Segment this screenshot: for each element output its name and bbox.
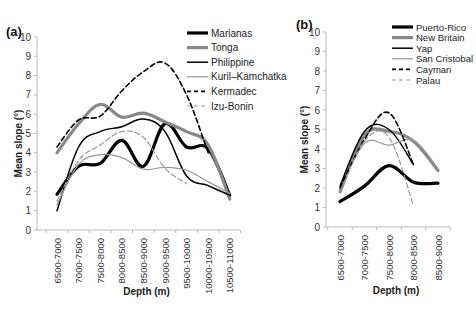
legend-label: Izu-Bonin	[211, 101, 253, 112]
y-tick-label: 5	[314, 124, 320, 135]
x-tick-label: 7500-8000	[95, 238, 106, 283]
y-tick-label: 7	[25, 89, 31, 100]
x-tick-label: 8000-8500	[408, 235, 419, 280]
x-axis-label: Depth (m)	[123, 286, 170, 297]
y-axis-label: Mean slope (°)	[299, 106, 310, 174]
legend-label: Cayman	[416, 64, 451, 75]
y-tick-label: 3	[314, 163, 320, 174]
x-axis-label: Depth (m)	[373, 285, 420, 296]
y-tick-label: 0	[314, 222, 320, 233]
x-tick-label: 9500-10000	[181, 238, 192, 289]
series-line-kuril-kamchatka	[57, 154, 230, 205]
y-tick-label: 2	[314, 183, 320, 194]
legend-label: Kuril–Kamchatka	[211, 71, 287, 82]
x-tick-label: 8000-8500	[116, 238, 127, 283]
y-tick-label: 7	[314, 85, 320, 96]
legend-label: Marianas	[211, 28, 252, 39]
y-tick-label: 4	[25, 147, 31, 158]
x-tick-label: 10500-11000	[224, 238, 235, 293]
legend-label: Philippine	[211, 57, 255, 68]
y-axis-label: Mean slope (°)	[13, 110, 24, 178]
x-tick-label: 6500-7000	[52, 238, 63, 283]
y-tick-label: 6	[314, 105, 320, 116]
y-tick-label: 2	[25, 186, 31, 197]
legend-label: Puerto-Rico	[416, 22, 466, 33]
x-tick-label: 8500-9000	[138, 238, 149, 283]
y-tick-label: 10	[20, 32, 32, 43]
x-tick-label: 6500-7000	[335, 235, 346, 280]
x-tick-label: 7000-7500	[73, 238, 84, 283]
y-tick-label: 8	[314, 66, 320, 77]
y-tick-label: 6	[25, 109, 31, 120]
x-tick-label: 7000-7500	[359, 235, 370, 280]
figure: (a)012345678910Mean slope (°)6500-700070…	[0, 0, 476, 310]
y-tick-label: 4	[314, 144, 320, 155]
y-tick-label: 8	[25, 70, 31, 81]
x-tick-label: 9000-9500	[160, 238, 171, 283]
legend-label: Yap	[416, 43, 432, 54]
x-tick-label: 7500-8000	[384, 235, 395, 280]
series-line-cayman	[340, 112, 414, 188]
y-tick-label: 1	[314, 202, 320, 213]
x-tick-label: 10000-10500	[203, 238, 214, 294]
chart-panel-a: (a)012345678910Mean slope (°)6500-700070…	[6, 24, 287, 297]
legend-label: Kermadec	[211, 86, 257, 97]
y-tick-label: 5	[25, 128, 31, 139]
legend-label: Palau	[416, 75, 440, 86]
chart-panel-b: (b)012345678910Mean slope (°)6500-700070…	[296, 17, 473, 296]
y-tick-label: 9	[314, 46, 320, 57]
y-tick-label: 3	[25, 167, 31, 178]
series-line-kermadec	[57, 62, 208, 153]
x-tick-label: 8500-9000	[433, 235, 444, 280]
y-tick-label: 1	[25, 205, 31, 216]
legend-label: Tonga	[211, 42, 239, 53]
legend-label: San Cristobal	[416, 53, 473, 64]
series-line-puerto-rico	[340, 166, 438, 202]
y-tick-label: 9	[25, 51, 31, 62]
y-tick-label: 10	[309, 27, 321, 38]
legend-label: New Britain	[416, 32, 465, 43]
y-tick-label: 0	[25, 225, 31, 236]
chart-canvas: (a)012345678910Mean slope (°)6500-700070…	[0, 0, 476, 310]
